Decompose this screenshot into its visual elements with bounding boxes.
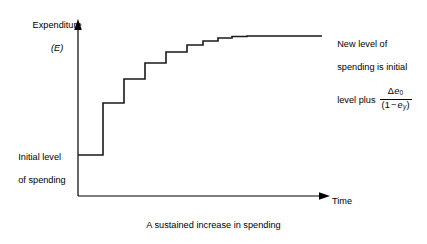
x-axis-label: Time xyxy=(332,196,352,206)
figure-container: Expenditure (E) Time Initial level of sp… xyxy=(0,0,427,244)
y-axis-label-line2: (E) xyxy=(51,43,63,53)
initial-level-label: Initial level of spending xyxy=(8,140,76,198)
expenditure-step-path xyxy=(78,36,322,155)
formula-numerator: Δe0 xyxy=(380,86,412,99)
figure-caption: A sustained increase in spending xyxy=(0,220,427,230)
new-level-annotation: New level of spending is initial level p… xyxy=(327,27,427,125)
annotation-line2: spending is initial xyxy=(337,62,407,72)
initial-level-line1: Initial level xyxy=(18,152,61,162)
formula-denominator: (1 − ey) xyxy=(380,99,412,113)
y-axis-label: Expenditure (E) xyxy=(11,8,93,66)
x-axis xyxy=(78,192,330,199)
y-axis-label-line1: Expenditure xyxy=(33,20,82,30)
multiplier-formula: Δe0(1 − ey) xyxy=(380,86,412,113)
initial-level-line2: of spending xyxy=(18,175,66,185)
annotation-line1: New level of xyxy=(337,39,387,49)
annotation-line3: level plus xyxy=(337,95,375,105)
